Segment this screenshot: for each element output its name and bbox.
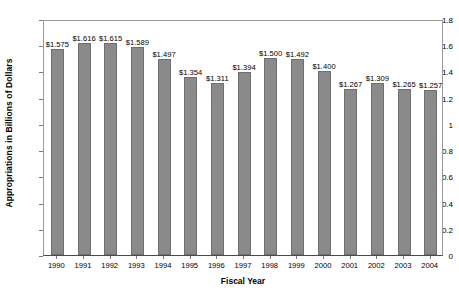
x-tick-mark xyxy=(110,256,111,259)
x-tick-label: 1996 xyxy=(208,261,225,270)
bar xyxy=(344,89,357,255)
x-tick-label: 1999 xyxy=(288,261,305,270)
x-tick-label: 2000 xyxy=(315,261,332,270)
bar-value-label: $1.267 xyxy=(339,80,362,89)
x-tick-label: 1995 xyxy=(181,261,198,270)
plot-area: $1.575$1.616$1.615$1.589$1.497$1.354$1.3… xyxy=(43,20,443,256)
bar-value-label: $1.394 xyxy=(232,63,255,72)
bar xyxy=(184,77,197,255)
y-tick-mark xyxy=(39,256,43,257)
bar xyxy=(318,71,331,255)
x-tick-mark xyxy=(136,256,137,259)
bar-value-label: $1.311 xyxy=(206,74,229,83)
bar xyxy=(371,83,384,255)
bar-value-label: $1.265 xyxy=(392,80,415,89)
x-tick-label: 2002 xyxy=(368,261,385,270)
bar xyxy=(291,59,304,255)
bar xyxy=(424,90,437,255)
x-tick-mark xyxy=(376,256,377,259)
x-tick-label: 2004 xyxy=(421,261,438,270)
y-tick-label: 0.2 xyxy=(442,225,453,234)
bar xyxy=(104,43,117,255)
x-tick-mark xyxy=(430,256,431,259)
bar-value-label: $1.309 xyxy=(366,74,389,83)
y-tick-label: 0 xyxy=(449,252,453,261)
y-tick-label: 0.8 xyxy=(442,147,453,156)
bar-value-label: $1.400 xyxy=(312,62,335,71)
x-tick-label: 1998 xyxy=(261,261,278,270)
x-tick-mark xyxy=(350,256,351,259)
x-tick-mark xyxy=(243,256,244,259)
x-tick-label: 2001 xyxy=(341,261,358,270)
bar xyxy=(211,83,224,255)
bar-chart-figure: Appropriations in Billions of Dollars 00… xyxy=(0,0,459,293)
y-axis-title-text: Appropriations in Billions of Dollars xyxy=(4,58,14,207)
bar xyxy=(131,47,144,255)
bar xyxy=(238,72,251,255)
bar xyxy=(264,58,277,255)
x-tick-mark xyxy=(56,256,57,259)
bar-value-label: $1.589 xyxy=(126,38,149,47)
x-tick-mark xyxy=(163,256,164,259)
y-tick-label: 0.4 xyxy=(442,199,453,208)
x-tick-mark xyxy=(403,256,404,259)
x-axis-title: Fiscal Year xyxy=(43,276,443,286)
y-tick-label: 1.4 xyxy=(442,68,453,77)
y-tick-label: 0.6 xyxy=(442,173,453,182)
x-tick-mark xyxy=(296,256,297,259)
bar-value-label: $1.616 xyxy=(72,34,95,43)
y-tick-label: 1 xyxy=(449,120,453,129)
x-tick-mark xyxy=(216,256,217,259)
y-tick-label: 1.6 xyxy=(442,42,453,51)
x-tick-label: 1991 xyxy=(75,261,92,270)
bar xyxy=(158,59,171,255)
bar xyxy=(398,89,411,255)
bar-value-label: $1.497 xyxy=(152,50,175,59)
bar-value-label: $1.575 xyxy=(46,40,69,49)
bar-value-label: $1.492 xyxy=(286,50,309,59)
x-tick-label: 1997 xyxy=(235,261,252,270)
x-tick-label: 1990 xyxy=(48,261,65,270)
bar-value-label: $1.615 xyxy=(99,34,122,43)
x-tick-label: 1992 xyxy=(101,261,118,270)
bar xyxy=(51,49,64,256)
x-tick-mark xyxy=(190,256,191,259)
y-tick-label: 1.8 xyxy=(442,16,453,25)
x-tick-label: 2003 xyxy=(395,261,412,270)
y-axis-title: Appropriations in Billions of Dollars xyxy=(0,0,18,266)
bar-value-label: $1.257 xyxy=(419,81,442,90)
bar xyxy=(78,43,91,255)
x-tick-mark xyxy=(83,256,84,259)
y-tick-label: 1.2 xyxy=(442,94,453,103)
x-tick-mark xyxy=(270,256,271,259)
x-tick-label: 1994 xyxy=(155,261,172,270)
x-tick-label: 1993 xyxy=(128,261,145,270)
bar-value-label: $1.500 xyxy=(259,49,282,58)
bar-value-label: $1.354 xyxy=(179,68,202,77)
x-tick-mark xyxy=(323,256,324,259)
